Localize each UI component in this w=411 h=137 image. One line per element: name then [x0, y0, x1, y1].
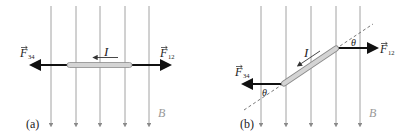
- current-rod: [284, 49, 336, 84]
- field-label: B: [369, 106, 377, 120]
- current-rod: [67, 63, 132, 68]
- angle-theta-label: θ: [351, 37, 356, 48]
- svg-text:12: 12: [168, 53, 175, 60]
- force-f12-label: F 12: [159, 46, 175, 60]
- panel-label: (b): [240, 117, 254, 131]
- field-label: B: [158, 106, 166, 120]
- angle-theta-label: θ: [262, 87, 267, 98]
- panel-b: I θ θ F 34 F 12 B (b): [234, 6, 395, 131]
- diagram-canvas: I F 34 F 12 B (a) I θ θ: [0, 0, 411, 137]
- force-f12-label: F 12: [379, 42, 395, 56]
- svg-text:34: 34: [28, 53, 35, 60]
- panel-label: (a): [26, 117, 39, 131]
- current-label: I: [303, 45, 309, 60]
- force-f34-label: F 34: [234, 65, 250, 79]
- force-f34-label: F 34: [19, 46, 35, 60]
- svg-text:12: 12: [388, 49, 395, 56]
- current-label: I: [103, 44, 109, 59]
- panel-a: I F 34 F 12 B (a): [19, 6, 175, 131]
- svg-text:34: 34: [243, 72, 250, 79]
